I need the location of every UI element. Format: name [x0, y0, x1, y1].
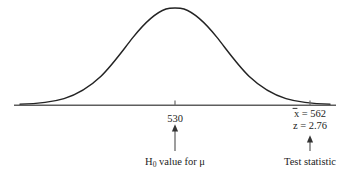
sample-mean-label: x = 562 — [294, 108, 326, 119]
test-statistic-caption: Test statistic — [284, 156, 336, 167]
z-score-label: z = 2.76 — [293, 120, 327, 131]
normal-curve — [20, 8, 330, 104]
axis-tick-label-530: 530 — [167, 113, 183, 124]
normal-distribution-diagram: 530 H0 value for μ x = 562 z = 2.76 Test… — [0, 0, 345, 173]
caption-mu-symbol: μ — [199, 156, 205, 167]
xbar-value: 562 — [310, 108, 326, 119]
test-statistic-arrow — [307, 135, 313, 151]
null-hypothesis-caption: H0 value for μ — [145, 156, 205, 169]
z-value: 2.76 — [309, 120, 327, 131]
z-equals: = — [298, 120, 309, 131]
null-value-arrow — [172, 124, 178, 151]
xbar-equals: = — [299, 108, 310, 119]
caption-value-for-text: value for — [156, 156, 199, 167]
